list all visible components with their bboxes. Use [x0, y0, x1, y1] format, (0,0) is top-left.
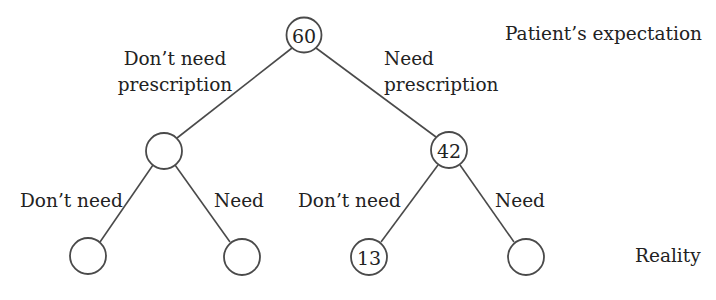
edge-label-root-right: Need prescription: [384, 46, 499, 98]
edge-label-root-left-line1: Don’t need: [110, 46, 240, 72]
node-right: 42: [431, 132, 467, 168]
edge-label-root-left-line2: prescription: [110, 72, 240, 98]
node-right-left: 13: [351, 239, 387, 275]
edge-label-right-right: Need: [495, 188, 545, 214]
edge-label-left-right: Need: [214, 188, 264, 214]
node-right-left-value: 13: [357, 247, 381, 269]
node-right-value: 42: [437, 140, 461, 162]
node-left: [146, 133, 182, 169]
edge-label-root-left: Don’t need prescription: [110, 46, 240, 98]
edge-label-left-left: Don’t need: [20, 188, 123, 214]
node-left-left: [70, 238, 106, 274]
node-root-value: 60: [292, 25, 316, 47]
node-right-right: [508, 239, 544, 275]
level-label-reality: Reality: [635, 243, 701, 269]
edge-label-root-right-line1: Need: [384, 46, 499, 72]
node-root: 60: [287, 18, 322, 53]
edge-label-right-left: Don’t need: [298, 188, 401, 214]
edge-label-root-right-line2: prescription: [384, 72, 499, 98]
node-left-right: [224, 239, 260, 275]
level-label-expectation: Patient’s expectation: [505, 21, 702, 47]
